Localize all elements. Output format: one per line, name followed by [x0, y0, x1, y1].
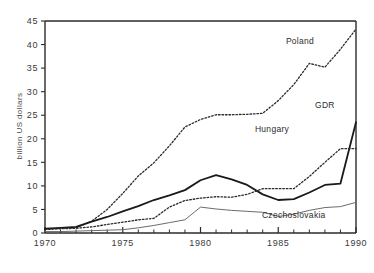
y-tick-label: 15 — [27, 158, 38, 168]
y-axis-label: billion US dollars — [15, 93, 24, 160]
x-tick-label: 1990 — [345, 238, 367, 248]
x-tick-label: 1970 — [34, 238, 56, 248]
chart-container: 051015202530354045 19701975198019851990 … — [0, 0, 374, 273]
y-tick-label: 25 — [27, 110, 38, 120]
x-tick-label: 1985 — [267, 238, 289, 248]
y-tick-label: 10 — [27, 181, 38, 191]
series-label-czechoslovakia: Czechoslovakia — [262, 210, 326, 220]
y-tick-label: 45 — [27, 16, 38, 26]
x-tick-label: 1975 — [112, 238, 134, 248]
y-tick-label: 0 — [32, 228, 38, 238]
y-tick-label: 5 — [32, 205, 38, 215]
series-label-gdr: GDR — [315, 100, 335, 110]
y-tick-label: 40 — [27, 40, 38, 50]
x-tick-label: 1980 — [189, 238, 211, 248]
y-tick-label: 35 — [27, 63, 38, 73]
y-tick-label: 20 — [27, 134, 38, 144]
line-chart: 051015202530354045 19701975198019851990 … — [0, 0, 374, 273]
y-tick-label: 30 — [27, 87, 38, 97]
series-label-hungary: Hungary — [255, 124, 290, 134]
series-label-poland: Poland — [286, 36, 314, 46]
